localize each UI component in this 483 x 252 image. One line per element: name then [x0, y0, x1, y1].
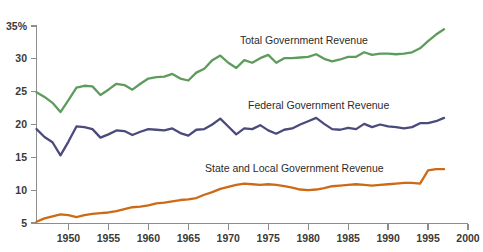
x-tick-label: 1965 [177, 232, 201, 244]
x-tick-label: 1955 [97, 232, 121, 244]
x-tick-label: 1985 [336, 232, 360, 244]
y-tick-label: 35% [6, 20, 28, 32]
x-tick-label: 2000 [456, 232, 480, 244]
series-label-federal: Federal Government Revenue [248, 99, 389, 111]
y-tick-label: 10 [15, 184, 27, 196]
x-tick-label: 1975 [257, 232, 281, 244]
y-tick-label: 20 [15, 118, 27, 130]
x-tick-label: 1995 [416, 232, 440, 244]
x-tick-label: 1990 [376, 232, 400, 244]
y-tick-label: 15 [15, 151, 27, 163]
series-label-total: Total Government Revenue [240, 34, 368, 46]
series-label-state-local: State and Local Government Revenue [205, 162, 384, 174]
chart-container: 35%30252015105 1950195519601965197019751… [0, 0, 483, 252]
line-chart: 35%30252015105 1950195519601965197019751… [0, 0, 483, 252]
x-tick-label: 1960 [137, 232, 161, 244]
y-tick-label: 25 [15, 85, 27, 97]
y-tick-label: 5 [21, 217, 27, 229]
x-tick-label: 1980 [297, 232, 321, 244]
x-tick-label: 1950 [57, 232, 81, 244]
x-tick-label: 1970 [217, 232, 241, 244]
y-tick-label: 30 [15, 52, 27, 64]
